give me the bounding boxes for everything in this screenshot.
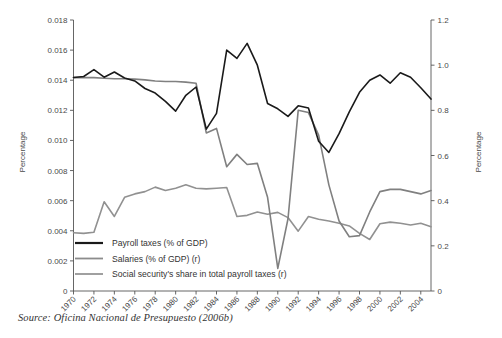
y2-tick-label: 0.4 <box>438 197 450 206</box>
x-tick-label: 1970 <box>59 294 78 313</box>
x-tick-label: 1974 <box>100 294 119 313</box>
y-tick-label: 0.014 <box>47 76 68 85</box>
y2-tick-label: 1.2 <box>438 16 450 25</box>
x-tick-label: 1986 <box>222 294 241 313</box>
series-lines <box>74 43 432 268</box>
x-tick-label: 2004 <box>406 294 425 313</box>
y-tick-label: 0.004 <box>47 227 68 236</box>
line-chart: 00.0020.0040.0060.0080.0100.0120.0140.01… <box>0 0 502 338</box>
x-tick-label: 1972 <box>79 294 98 313</box>
y2-tick-label: 0 <box>438 287 443 296</box>
x-tick-label: 1984 <box>202 294 221 313</box>
y-tick-label: 0.010 <box>47 136 68 145</box>
right-y-axis: 00.20.40.60.81.01.2 <box>431 16 449 296</box>
y2-tick-label: 0.2 <box>438 242 450 251</box>
source-note: Source: Oficina Nacional de Presupuesto … <box>18 312 233 323</box>
legend-label-2: Social security's share in total payroll… <box>112 269 287 279</box>
x-tick-label: 1978 <box>141 294 160 313</box>
y-tick-label: 0.002 <box>47 257 68 266</box>
x-tick-label: 1996 <box>325 294 344 313</box>
x-tick-label: 1980 <box>161 294 180 313</box>
x-tick-label: 1976 <box>120 294 139 313</box>
y-tick-label: 0.018 <box>47 16 68 25</box>
y-tick-label: 0.008 <box>47 167 68 176</box>
left-axis-title: Percentage <box>18 131 27 172</box>
left-y-axis: 00.0020.0040.0060.0080.0100.0120.0140.01… <box>47 16 73 296</box>
chart-legend: Payroll taxes (% of GDP)Salaries (% of G… <box>75 238 287 279</box>
x-tick-label: 1994 <box>304 294 323 313</box>
x-tick-label: 2002 <box>386 294 405 313</box>
x-tick-label: 1988 <box>243 294 262 313</box>
series-line-2 <box>74 185 432 240</box>
y2-tick-label: 0.6 <box>438 152 450 161</box>
right-axis-title: Percentage <box>474 131 483 172</box>
x-tick-label: 1992 <box>284 294 303 313</box>
x-tick-label: 2000 <box>365 294 384 313</box>
y-tick-label: 0.012 <box>47 106 68 115</box>
legend-label-1: Salaries (% of GDP) (r) <box>112 254 200 264</box>
legend-label-0: Payroll taxes (% of GDP) <box>112 238 208 248</box>
y-tick-label: 0 <box>63 287 68 296</box>
y2-tick-label: 1.0 <box>438 61 450 70</box>
y2-tick-label: 0.8 <box>438 106 450 115</box>
chart-figure: 00.0020.0040.0060.0080.0100.0120.0140.01… <box>0 0 502 338</box>
x-tick-label: 1998 <box>345 294 364 313</box>
x-axis: 1970197219741976197819801982198419861988… <box>59 291 431 313</box>
x-tick-label: 1990 <box>263 294 282 313</box>
x-tick-label: 1982 <box>182 294 201 313</box>
y-tick-label: 0.016 <box>47 46 68 55</box>
series-line-0 <box>74 43 432 152</box>
y-tick-label: 0.006 <box>47 197 68 206</box>
